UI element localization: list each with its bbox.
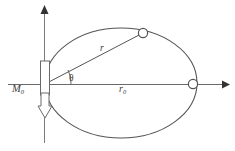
- orbit-diagram-figure: M0 r r0 θ: [0, 0, 235, 151]
- vertical-axis-arrowhead: [41, 5, 49, 14]
- reference-radius-label: r0: [119, 84, 126, 94]
- moment-label-symbol: M: [12, 83, 21, 94]
- orbiting-body-marker: [138, 28, 147, 37]
- radius-label: r: [100, 44, 104, 54]
- moment-label: M0: [12, 84, 24, 95]
- moment-label-subscript: 0: [21, 88, 24, 95]
- angle-label: θ: [69, 74, 74, 84]
- radius-label-symbol: r: [100, 43, 104, 53]
- reference-radius-subscript: 0: [123, 88, 126, 95]
- horizontal-axis-arrowhead: [222, 81, 230, 89]
- moment-arrow-icon: [38, 93, 52, 118]
- orbit-diagram-canvas: [0, 0, 235, 151]
- central-body-bar: [41, 61, 50, 95]
- radius-line: [45, 35, 140, 85]
- apsis-marker: [188, 79, 197, 88]
